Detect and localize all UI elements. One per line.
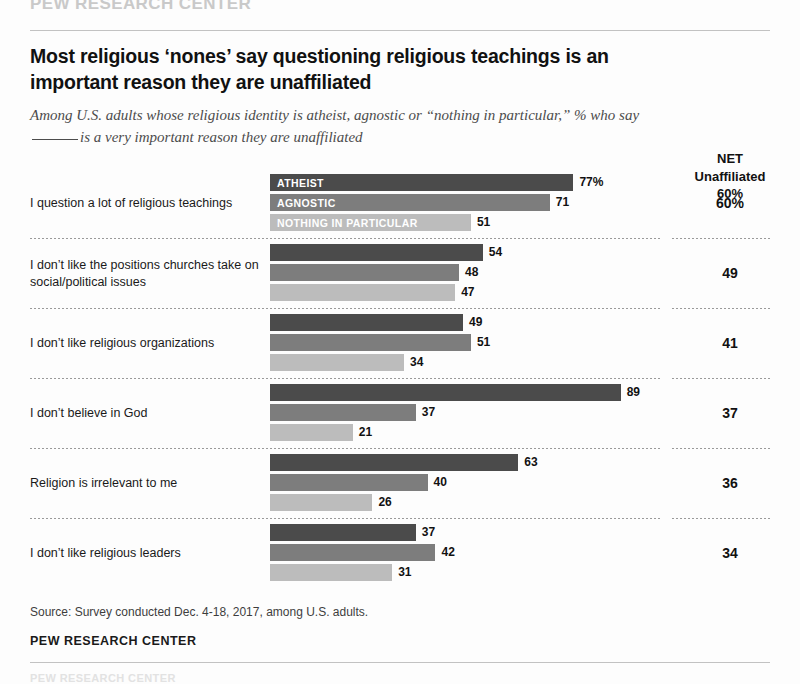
bar-row: 37 (270, 524, 670, 541)
bar-atheist[interactable] (270, 454, 518, 471)
bar-value-label: 49 (469, 315, 482, 329)
bar-row: 37 (270, 404, 670, 421)
top-divider (30, 30, 770, 31)
source-note: Source: Survey conducted Dec. 4-18, 2017… (30, 605, 368, 619)
bar-agnostic[interactable] (270, 544, 435, 561)
bar-row: ATHEIST77% (270, 174, 670, 191)
bar-row: 51 (270, 334, 670, 351)
group-separator-net (672, 308, 770, 309)
bar-atheist[interactable]: ATHEIST (270, 174, 573, 191)
category-label: I question a lot of religious teachings (30, 195, 260, 212)
bar-group-bars: ATHEIST77%AGNOSTIC71NOTHING IN PARTICULA… (270, 174, 670, 234)
chart-page: PEW RESEARCH CENTER Most religious ‘none… (0, 0, 800, 684)
subtitle-text-part1: Among U.S. adults whose religious identi… (30, 107, 639, 123)
bar-value-label: 89 (627, 385, 640, 399)
bar-group: I don’t believe in God89372137 (0, 378, 800, 448)
group-separator (30, 308, 660, 309)
group-separator-net (672, 378, 770, 379)
bar-value-label: 26 (378, 495, 391, 509)
bar-row: NOTHING IN PARTICULAR51 (270, 214, 670, 231)
category-label: I don’t like religious organizations (30, 335, 260, 352)
bar-value-label: 21 (359, 425, 372, 439)
group-separator (30, 378, 660, 379)
bar-value-label: 71 (556, 195, 569, 209)
bar-row: 48 (270, 264, 670, 281)
net-value: 49 (675, 265, 785, 281)
net-value: 37 (675, 405, 785, 421)
net-value: 60% (675, 195, 785, 211)
bar-nothing-in-particular[interactable] (270, 424, 353, 441)
bar-agnostic[interactable] (270, 404, 416, 421)
bar-value-label: 51 (477, 335, 490, 349)
bar-value-label: 54 (489, 245, 502, 259)
bar-value-label: 63 (524, 455, 537, 469)
bar-row: 63 (270, 454, 670, 471)
bar-row: 31 (270, 564, 670, 581)
bottom-ghost-brand: PEW RESEARCH CENTER (30, 672, 176, 684)
bar-atheist[interactable] (270, 384, 621, 401)
bar-agnostic[interactable] (270, 334, 471, 351)
subtitle-text-part2: is a very important reason they are unaf… (80, 129, 363, 145)
net-value: 34 (675, 545, 785, 561)
bar-group: I don’t like the positions churches take… (0, 238, 800, 308)
bar-value-label: 37 (422, 405, 435, 419)
bar-group: Religion is irrelevant to me63402636 (0, 448, 800, 518)
series-legend-label: ATHEIST (270, 177, 324, 189)
bar-atheist[interactable] (270, 314, 463, 331)
chart-subtitle: Among U.S. adults whose religious identi… (30, 105, 650, 149)
group-separator-net (672, 238, 770, 239)
bar-value-label: 42 (441, 545, 454, 559)
bar-group: I question a lot of religious teachingsA… (0, 168, 800, 238)
bar-row: 42 (270, 544, 670, 561)
category-label: I don’t believe in God (30, 405, 260, 422)
group-separator (30, 448, 660, 449)
page-title: Most religious ‘nones’ say questioning r… (30, 44, 690, 96)
bar-agnostic[interactable] (270, 474, 428, 491)
bar-nothing-in-particular[interactable] (270, 564, 392, 581)
bar-row: 34 (270, 354, 670, 371)
category-label: I don’t like religious leaders (30, 545, 260, 562)
bar-value-label: 47 (461, 285, 474, 299)
net-value: 41 (675, 335, 785, 351)
series-legend-label: AGNOSTIC (270, 197, 336, 209)
bar-agnostic[interactable] (270, 264, 459, 281)
net-value: 36 (675, 475, 785, 491)
bar-row: 49 (270, 314, 670, 331)
bar-value-label: 34 (410, 355, 423, 369)
bar-nothing-in-particular[interactable] (270, 494, 372, 511)
bar-group-bars: 495134 (270, 314, 670, 374)
bar-nothing-in-particular[interactable]: NOTHING IN PARTICULAR (270, 214, 471, 231)
bar-value-label: 77% (579, 175, 603, 189)
bar-row: AGNOSTIC71 (270, 194, 670, 211)
bar-value-label: 40 (434, 475, 447, 489)
bar-row: 21 (270, 424, 670, 441)
bar-row: 54 (270, 244, 670, 261)
bar-group: I don’t like religious organizations4951… (0, 308, 800, 378)
net-header-line1: NET (675, 150, 785, 168)
brand-footer: PEW RESEARCH CENTER (30, 634, 196, 648)
bar-value-label: 48 (465, 265, 478, 279)
top-ghost-brand: PEW RESEARCH CENTER (30, 0, 251, 14)
group-separator-net (672, 448, 770, 449)
bar-agnostic[interactable]: AGNOSTIC (270, 194, 550, 211)
group-separator (30, 238, 660, 239)
bar-value-label: 51 (477, 215, 490, 229)
bar-group-bars: 374231 (270, 524, 670, 584)
bottom-divider (30, 662, 770, 663)
bar-group: I don’t like religious leaders37423134 (0, 518, 800, 588)
bar-atheist[interactable] (270, 524, 416, 541)
bar-value-label: 37 (422, 525, 435, 539)
bar-row: 47 (270, 284, 670, 301)
group-separator (30, 518, 660, 519)
group-separator-net (672, 518, 770, 519)
category-label: Religion is irrelevant to me (30, 475, 260, 492)
bar-value-label: 31 (398, 565, 411, 579)
fill-in-blank (32, 139, 78, 140)
bar-row: 40 (270, 474, 670, 491)
bar-group-bars: 634026 (270, 454, 670, 514)
series-legend-label: NOTHING IN PARTICULAR (270, 217, 418, 229)
bar-nothing-in-particular[interactable] (270, 284, 455, 301)
bar-row: 26 (270, 494, 670, 511)
bar-nothing-in-particular[interactable] (270, 354, 404, 371)
bar-atheist[interactable] (270, 244, 483, 261)
